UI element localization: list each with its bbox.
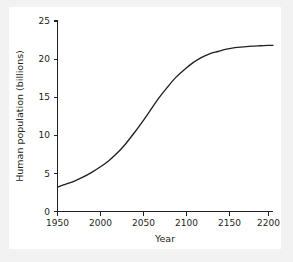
x-tick-label-2100: 2100: [175, 218, 198, 228]
y-tick-marks: [54, 21, 58, 212]
population-curve: [58, 45, 274, 187]
y-tick-labels: 0 5 10 15 20 25: [39, 16, 51, 217]
x-tick-label-1950: 1950: [46, 218, 69, 228]
x-tick-label-2000: 2000: [89, 218, 112, 228]
y-tick-label-15: 15: [39, 92, 50, 102]
x-tick-label-2150: 2150: [218, 218, 241, 228]
y-tick-label-10: 10: [39, 130, 51, 140]
x-tick-label-2050: 2050: [132, 218, 155, 228]
plot-panel: 0 5 10 15 20 25 1950 2000 2050 2100 2150…: [9, 7, 281, 249]
y-tick-label-0: 0: [44, 207, 50, 217]
y-tick-label-20: 20: [39, 54, 51, 64]
x-tick-label-2200: 2200: [257, 218, 280, 228]
y-tick-label-5: 5: [44, 169, 50, 179]
x-tick-labels: 1950 2000 2050 2100 2150 2200: [46, 218, 280, 228]
y-axis-title: Human population (billions): [14, 50, 25, 182]
y-tick-label-25: 25: [39, 16, 50, 26]
figure-root: 0 5 10 15 20 25 1950 2000 2050 2100 2150…: [0, 0, 293, 262]
population-line-chart: 0 5 10 15 20 25 1950 2000 2050 2100 2150…: [9, 7, 281, 249]
x-tick-marks: [58, 212, 269, 216]
x-axis-title: Year: [154, 233, 175, 244]
